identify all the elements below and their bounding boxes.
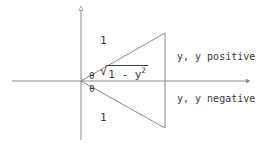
adjacent-side-expression-label: √ 1 - y2 [100,65,148,80]
lower-region-label: y, y negative [177,94,255,104]
lower-hypotenuse-length-label: 1 [100,112,107,123]
upper-hypotenuse-length-label: 1 [100,35,107,46]
geometry-figure: 1 1 θ θ √ 1 - y2 y, y positive y, y nega… [0,0,258,145]
upper-region-label: y, y positive [177,52,255,62]
upper-angle-theta-label: θ [89,71,95,81]
vertical-axis-arrowhead [79,6,83,11]
radical-sign-icon: √ [100,65,107,77]
radicand-exponent: 2 [141,66,146,75]
lower-angle-theta-label: θ [89,84,95,94]
radicand-group: 1 - y2 [107,65,148,80]
radicand-base: 1 - y [108,68,141,81]
horizontal-axis-arrowhead [246,79,251,83]
